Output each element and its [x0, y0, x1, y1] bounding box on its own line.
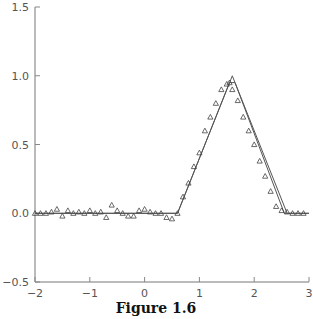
- triangle-marker: [137, 208, 142, 213]
- triangle-marker: [219, 87, 224, 92]
- chart: 1.51.00.50.0−0.5−2−10123: [0, 0, 312, 300]
- triangle-marker: [60, 213, 65, 218]
- x-tick-label: −1: [82, 287, 98, 300]
- y-tick-label: 1.5: [12, 1, 30, 14]
- x-tick-label: 2: [251, 287, 258, 300]
- triangle-marker: [65, 208, 70, 213]
- triangle-marker: [235, 98, 240, 103]
- series-line: [35, 76, 309, 214]
- triangle-marker: [208, 114, 213, 119]
- triangle-marker: [54, 207, 59, 212]
- triangle-marker: [164, 215, 169, 220]
- triangle-marker: [126, 213, 131, 218]
- triangle-marker: [115, 208, 120, 213]
- triangle-marker: [109, 202, 114, 207]
- x-tick-label: 0: [141, 287, 148, 300]
- x-tick-label: 1: [196, 287, 203, 300]
- triangle-marker: [213, 101, 218, 106]
- triangle-marker: [142, 207, 147, 212]
- triangle-marker: [202, 128, 207, 133]
- triangle-marker: [230, 87, 235, 92]
- triangle-marker: [252, 142, 257, 147]
- y-tick-label: 1.0: [12, 70, 30, 83]
- triangle-marker: [268, 189, 273, 194]
- y-tick-label: −0.5: [2, 276, 29, 289]
- triangle-marker: [274, 204, 279, 209]
- x-tick-label: 3: [306, 287, 313, 300]
- y-tick-label: 0.0: [12, 207, 30, 220]
- triangle-marker: [241, 114, 246, 119]
- triangle-marker: [131, 213, 136, 218]
- figure-caption: Figure 1.6: [0, 300, 312, 316]
- x-tick-label: −2: [27, 287, 43, 300]
- triangle-marker: [87, 208, 92, 213]
- y-tick-label: 0.5: [12, 139, 30, 152]
- triangle-marker: [257, 158, 262, 163]
- triangle-marker: [263, 174, 268, 179]
- triangle-marker: [104, 215, 109, 220]
- triangle-marker: [169, 216, 174, 221]
- triangle-marker: [246, 128, 251, 133]
